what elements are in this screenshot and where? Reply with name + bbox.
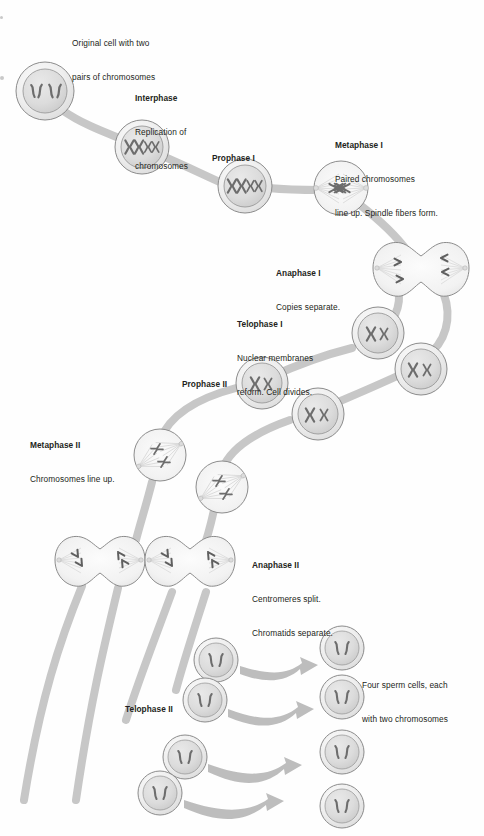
label-result: Four sperm cells, each with two chromoso…: [362, 658, 448, 748]
cell-telophase-2-2: [183, 678, 227, 722]
cell-telophase-1-a: [352, 307, 404, 359]
label-interphase-line-2: chromosomes: [135, 161, 188, 172]
label-result-line-1: Four sperm cells, each: [362, 680, 448, 691]
cell-metaphase-2-a: [133, 429, 187, 481]
label-prophase-2-header: Prophase II: [182, 379, 227, 390]
label-telophase-1: Telophase I Nuclear membranes reform. Ce…: [237, 297, 313, 420]
label-anaphase-2-header: Anaphase II: [252, 560, 333, 571]
label-telophase-1-line-1: Nuclear membranes: [237, 353, 313, 364]
cell-metaphase-2-b: [195, 461, 249, 513]
cell-sperm-2: [320, 675, 364, 719]
label-result-line-2: with two chromosomes: [362, 714, 448, 725]
label-telophase-2-header: Telophase II: [125, 704, 173, 715]
label-telophase-1-header: Telophase I: [237, 319, 313, 330]
label-prophase-1-header: Prophase I: [212, 153, 255, 164]
cell-anaphase-2-a: [55, 536, 145, 586]
label-metaphase-2-header: Metaphase II: [30, 440, 115, 451]
cell-sperm-3: [320, 730, 364, 774]
label-prophase-2: Prophase II: [182, 357, 227, 413]
label-metaphase-1-header: Metaphase I: [335, 140, 438, 151]
label-prophase-1: Prophase I: [212, 131, 255, 187]
label-anaphase-1-header: Anaphase I: [276, 268, 340, 279]
label-original-cell-line-1: Original cell with two: [72, 38, 155, 49]
label-anaphase-2: Anaphase II Centromeres split. Chromatid…: [252, 538, 333, 661]
cell-original: [16, 62, 74, 120]
cell-anaphase-2-b: [145, 536, 235, 586]
cell-anaphase-1: [373, 242, 469, 296]
label-anaphase-2-line-2: Chromatids separate.: [252, 628, 333, 639]
label-metaphase-2-line-1: Chromosomes line up.: [30, 474, 115, 485]
label-interphase: Interphase Replication of chromosomes: [135, 71, 188, 194]
label-metaphase-2: Metaphase II Chromosomes line up.: [30, 418, 115, 508]
label-interphase-line-1: Replication of: [135, 127, 188, 138]
label-interphase-header: Interphase: [135, 93, 188, 104]
meiosis-diagram-page: Original cell with two pairs of chromoso…: [0, 0, 484, 836]
label-metaphase-1-line-1: Paired chromosomes: [335, 174, 438, 185]
cell-sperm-4: [320, 784, 364, 828]
label-metaphase-1: Metaphase I Paired chromosomes line up. …: [335, 118, 438, 241]
cell-telophase-2-4: [138, 771, 182, 815]
cell-telophase-2-1: [194, 638, 238, 682]
label-anaphase-2-line-1: Centromeres split.: [252, 594, 333, 605]
cell-telophase-1-b: [395, 343, 447, 395]
cell-telophase-2-3: [163, 735, 207, 779]
label-metaphase-1-line-2: line up. Spindle fibers form.: [335, 208, 438, 219]
label-telophase-2: Telophase II: [125, 682, 173, 738]
label-telophase-1-line-2: reform. Cell divides.: [237, 387, 313, 398]
